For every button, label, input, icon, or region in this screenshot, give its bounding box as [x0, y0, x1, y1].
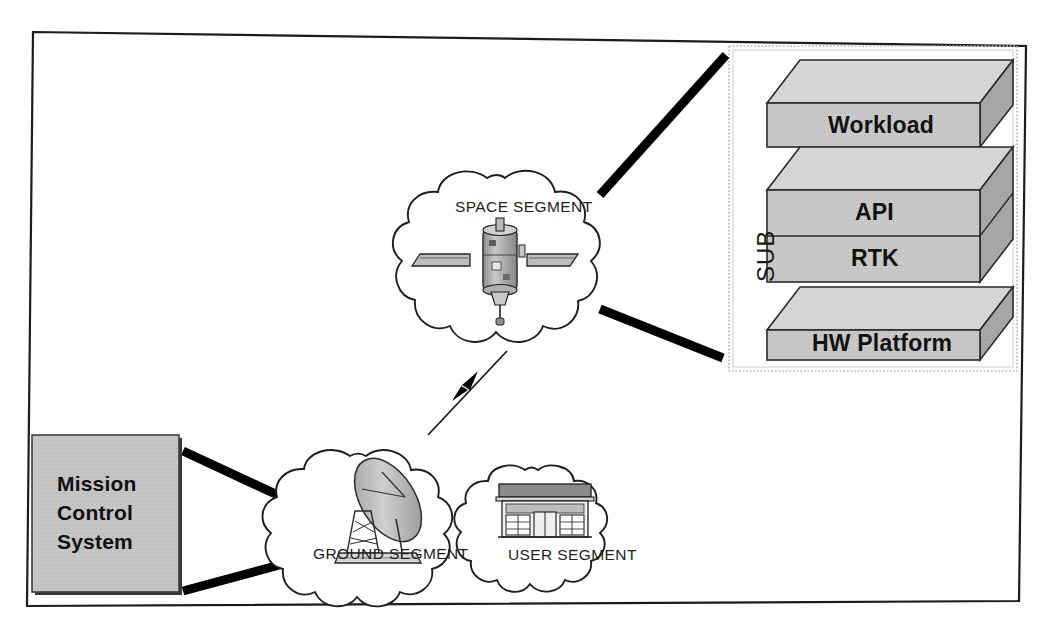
space-segment-label: SPACE SEGMENT [455, 198, 593, 216]
connector-mcs-to-ground-upper [183, 451, 282, 497]
mcs-line-1: Mission [57, 470, 137, 499]
connector-mcs-to-ground-lower [183, 564, 283, 591]
lightning-bolt-icon [452, 366, 484, 401]
mcs-line-3: System [57, 528, 137, 557]
workload-box-label: Workload [828, 112, 934, 139]
hw-platform-box-label: HW Platform [812, 330, 952, 357]
mission-control-system-label: Mission Control System [57, 470, 137, 557]
ground-segment-cloud[interactable] [263, 447, 453, 607]
architecture-diagram: SPACE SEGMENT GROUND SEGMENT USER SEGMEN… [0, 0, 1053, 643]
mcs-line-2: Control [57, 499, 137, 528]
user-segment-cloud[interactable] [454, 466, 607, 592]
rtk-box-label: RTK [851, 245, 899, 272]
connector-space-to-ground [428, 351, 507, 435]
building-storefront-icon [496, 484, 594, 537]
user-segment-label: USER SEGMENT [508, 546, 637, 564]
api-box-label: API [855, 199, 894, 226]
space-segment-cloud[interactable] [393, 171, 600, 342]
ground-segment-label: GROUND SEGMENT [313, 545, 468, 563]
connector-space-to-sub-upper [600, 55, 726, 195]
sub-panel-side-label: SUB [752, 230, 780, 282]
connector-space-to-sub-lower [600, 309, 723, 358]
